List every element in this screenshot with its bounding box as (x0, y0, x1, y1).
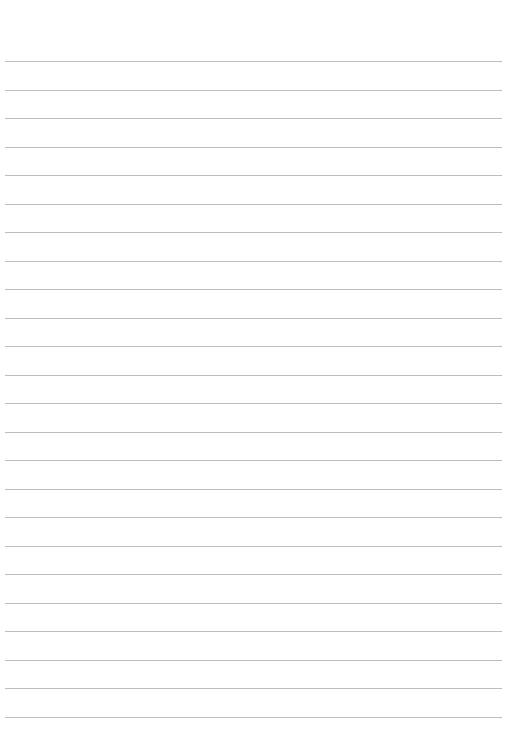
ruled-line (5, 232, 502, 233)
ruled-line (5, 489, 502, 490)
ruled-line (5, 574, 502, 575)
ruled-line (5, 375, 502, 376)
ruled-line (5, 460, 502, 461)
ruled-line (5, 289, 502, 290)
ruled-line (5, 204, 502, 205)
ruled-line (5, 403, 502, 404)
ruled-line (5, 432, 502, 433)
ruled-line (5, 346, 502, 347)
ruled-line (5, 147, 502, 148)
ruled-line (5, 717, 502, 718)
ruled-line (5, 546, 502, 547)
ruled-line (5, 517, 502, 518)
ruled-line (5, 318, 502, 319)
ruled-line (5, 660, 502, 661)
ruled-line (5, 90, 502, 91)
ruled-line (5, 61, 502, 62)
lined-paper-page (0, 0, 519, 751)
ruled-line (5, 261, 502, 262)
ruled-line (5, 603, 502, 604)
ruled-line (5, 175, 502, 176)
ruled-line (5, 118, 502, 119)
ruled-line (5, 631, 502, 632)
ruled-line (5, 688, 502, 689)
